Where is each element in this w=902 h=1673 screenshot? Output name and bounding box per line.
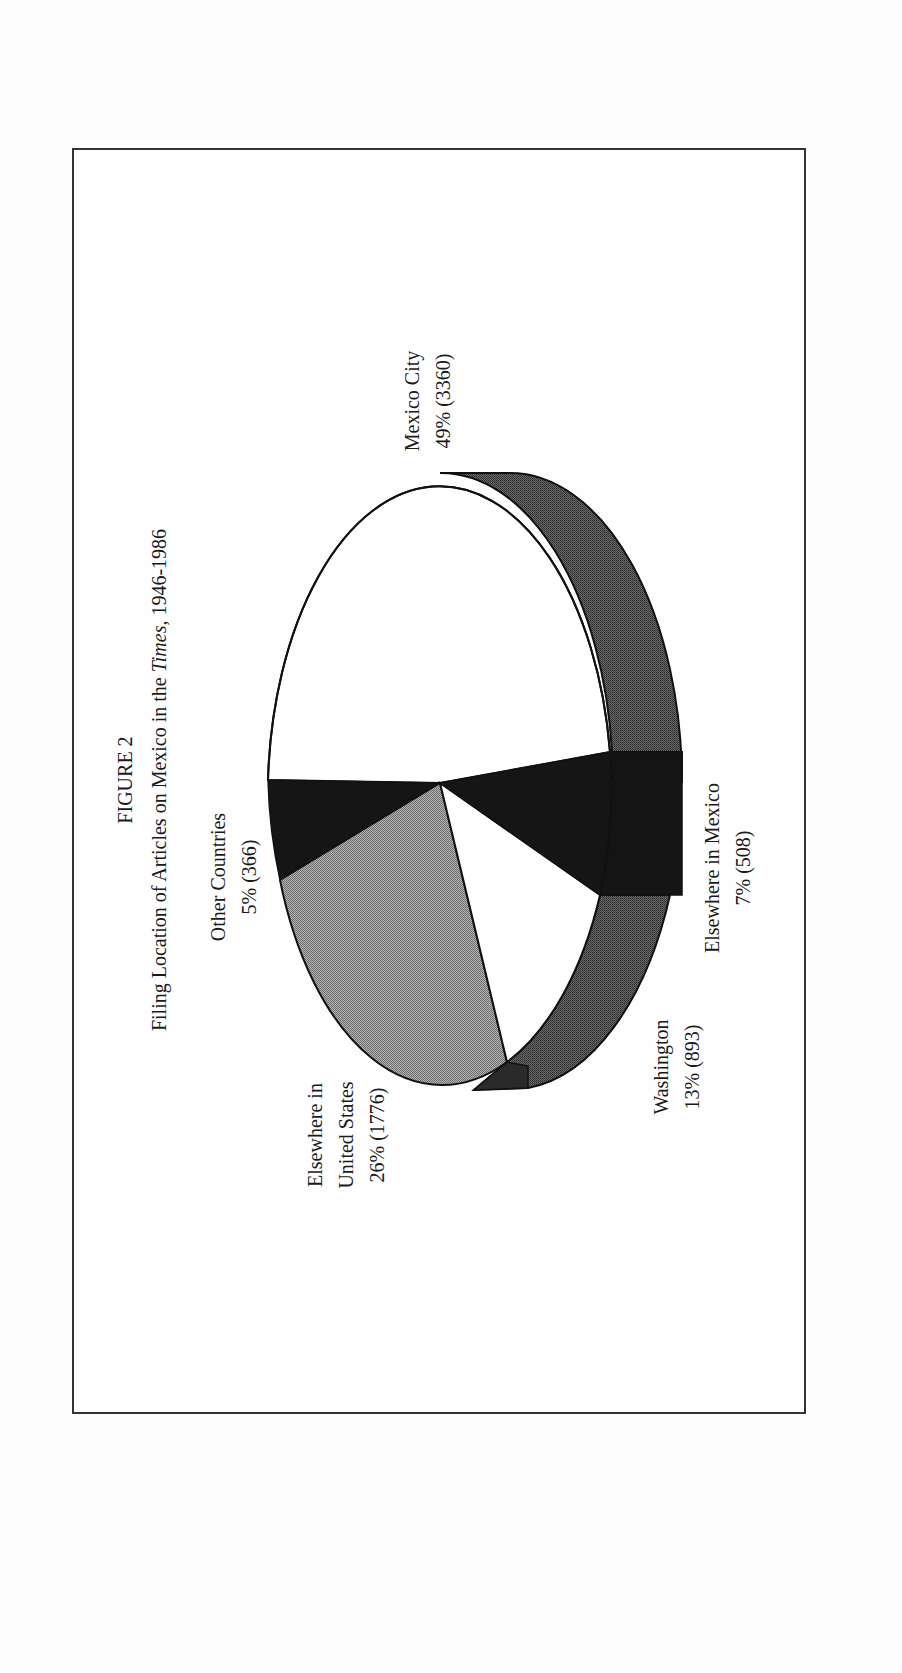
- label-elsewhere-us: Elsewhere in United States 26% (1776): [300, 1060, 393, 1210]
- label-name: Washington: [646, 1002, 677, 1132]
- label-other-countries: Other Countries 5% (366): [203, 792, 265, 962]
- label-value: 49% (3360): [428, 336, 459, 466]
- label-name: Elsewhere in Mexico: [697, 768, 728, 968]
- label-washington: Washington 13% (893): [646, 1002, 708, 1132]
- label-name-line2: United States: [331, 1060, 362, 1210]
- label-mexico-city: Mexico City 49% (3360): [397, 336, 459, 466]
- label-value: 5% (366): [234, 792, 265, 962]
- figure-label: FIGURE 2: [108, 480, 142, 1080]
- label-elsewhere-mexico: Elsewhere in Mexico 7% (508): [697, 768, 759, 968]
- label-name-line1: Elsewhere in: [300, 1060, 331, 1210]
- label-value: 13% (893): [677, 1002, 708, 1132]
- label-name: Mexico City: [397, 336, 428, 466]
- figure-title-block: FIGURE 2 Filing Location of Articles on …: [108, 480, 176, 1080]
- pie-top: [268, 486, 611, 1085]
- label-value: 26% (1776): [362, 1060, 393, 1210]
- figure-title: Filing Location of Articles on Mexico in…: [142, 480, 176, 1080]
- label-name: Other Countries: [203, 792, 234, 962]
- label-value: 7% (508): [728, 768, 759, 968]
